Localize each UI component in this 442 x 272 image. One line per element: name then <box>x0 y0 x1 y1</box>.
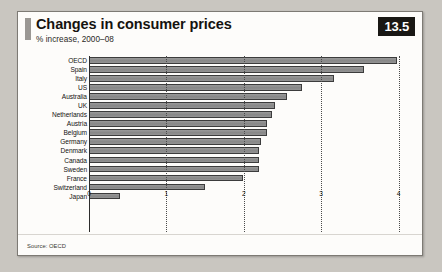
bar-track <box>89 165 414 174</box>
x-axis-tick-label: 3 <box>319 190 323 197</box>
bar <box>89 157 259 164</box>
bar-category-label: France <box>18 174 87 183</box>
bar-track <box>89 65 414 74</box>
figure-header: Changes in consumer prices % increase, 2… <box>18 12 422 58</box>
bar <box>89 66 364 73</box>
bar <box>89 75 334 82</box>
x-axis-tick-label: 0 <box>87 190 91 197</box>
bar-category-label: Canada <box>18 156 87 165</box>
bar <box>89 166 259 173</box>
bar-row: Italy <box>18 74 422 83</box>
chart-plot-area: OECDSpainItalyUSAustraliaUKNetherlandsAu… <box>18 56 422 232</box>
bar-row: Canada <box>18 156 422 165</box>
bar-row: Spain <box>18 65 422 74</box>
bar-category-label: Japan <box>18 192 87 201</box>
bar-row: Austria <box>18 119 422 128</box>
bar-category-label: US <box>18 83 87 92</box>
bar-track <box>89 74 414 83</box>
bar-category-label: Switzerland <box>18 183 87 192</box>
bar-row: OECD <box>18 56 422 65</box>
bar-category-label: Italy <box>18 74 87 83</box>
bar-row: Netherlands <box>18 110 422 119</box>
x-axis-tick-label: 4 <box>397 190 401 197</box>
bar <box>89 147 259 154</box>
bar <box>89 138 261 145</box>
title-accent-bar <box>25 18 31 40</box>
bar-category-label: Denmark <box>18 146 87 155</box>
bar-track <box>89 83 414 92</box>
figure-number-badge: 13.5 <box>378 17 415 36</box>
bar-category-label: Sweden <box>18 165 87 174</box>
bar-track <box>89 92 414 101</box>
bar <box>89 120 267 127</box>
bar-category-label: Spain <box>18 65 87 74</box>
bar-category-label: Austria <box>18 119 87 128</box>
bar-category-label: Australia <box>18 92 87 101</box>
bar <box>89 129 267 136</box>
x-axis-tick-label: 2 <box>242 190 246 197</box>
bar-row: US <box>18 83 422 92</box>
bar-track <box>89 119 414 128</box>
bar-category-label: Netherlands <box>18 110 87 119</box>
bar-track <box>89 56 414 65</box>
bar-rows-container: OECDSpainItalyUSAustraliaUKNetherlandsAu… <box>18 56 422 232</box>
chart-subtitle: % increase, 2000–08 <box>36 35 114 44</box>
bar-track <box>89 156 414 165</box>
bar-row: Germany <box>18 137 422 146</box>
bar-category-label: Germany <box>18 137 87 146</box>
source-divider <box>18 234 422 235</box>
bar-row: Sweden <box>18 165 422 174</box>
bar-row: UK <box>18 101 422 110</box>
bar-track <box>89 146 414 155</box>
source-note: Source: OECD <box>27 243 66 249</box>
bar-category-label: Belgium <box>18 128 87 137</box>
bar <box>89 175 243 182</box>
x-axis: 01234 <box>89 188 414 202</box>
bar <box>89 111 272 118</box>
bar-row: Belgium <box>18 128 422 137</box>
bar-row: France <box>18 174 422 183</box>
bar-track <box>89 128 414 137</box>
bar-row: Denmark <box>18 146 422 155</box>
bar-category-label: UK <box>18 101 87 110</box>
bar-track <box>89 101 414 110</box>
bar <box>89 57 397 64</box>
bar <box>89 93 287 100</box>
figure-card: Changes in consumer prices % increase, 2… <box>17 11 423 256</box>
bar-row: Australia <box>18 92 422 101</box>
page-title: Changes in consumer prices <box>36 16 232 32</box>
bar-category-label: OECD <box>18 56 87 65</box>
bar-track <box>89 110 414 119</box>
bar <box>89 102 275 109</box>
bar-track <box>89 174 414 183</box>
bar <box>89 84 302 91</box>
bar-track <box>89 137 414 146</box>
x-axis-tick-label: 1 <box>165 190 169 197</box>
